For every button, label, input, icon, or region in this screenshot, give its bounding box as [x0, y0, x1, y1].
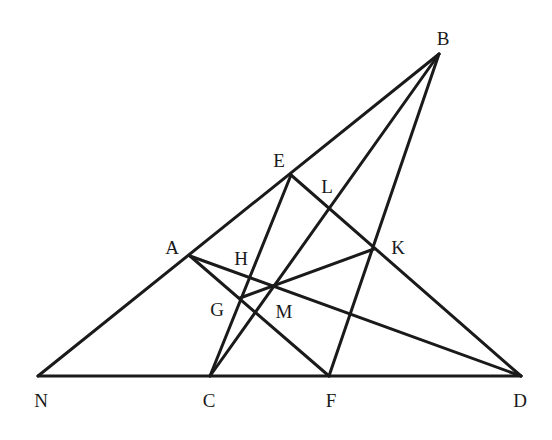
point-label-N: N	[34, 391, 48, 410]
segment-NB	[38, 54, 439, 376]
point-label-H: H	[234, 249, 248, 268]
point-label-C: C	[203, 391, 216, 410]
geometry-diagram: BELAHKGMNCFD	[0, 0, 552, 440]
point-label-B: B	[437, 29, 450, 48]
diagram-canvas	[0, 0, 552, 440]
point-label-A: A	[165, 238, 179, 257]
point-label-E: E	[273, 151, 285, 170]
point-label-K: K	[391, 238, 405, 257]
point-label-D: D	[513, 391, 527, 410]
segment-ED	[291, 175, 521, 376]
point-label-L: L	[321, 177, 333, 196]
point-label-G: G	[210, 300, 224, 319]
segment-AD	[190, 256, 521, 376]
point-label-F: F	[326, 391, 337, 410]
point-label-M: M	[276, 302, 293, 321]
segment-GK	[240, 249, 374, 298]
segment-BC	[210, 54, 439, 376]
